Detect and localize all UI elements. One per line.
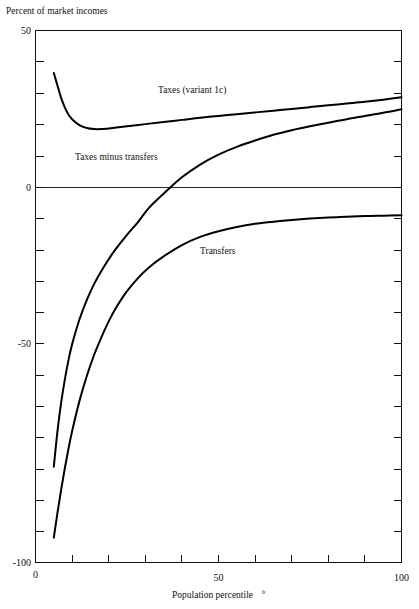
y-tick-label-0: 0	[26, 182, 31, 193]
y-axis-ticks	[36, 62, 44, 532]
y-tick-label-50: 50	[21, 25, 31, 36]
curve-taxes	[54, 73, 402, 129]
y-axis-title: Percent of market incomes	[6, 6, 108, 16]
figure-container: Percent of market incomes	[0, 0, 419, 609]
curve-label-taxes-minus-transfers: Taxes minus transfers	[75, 152, 158, 162]
x-axis-title: Population percentile	[172, 590, 253, 600]
plot-frame	[36, 31, 402, 563]
x-axis-title-group: Population percentile b	[172, 588, 265, 600]
x-axis-footnote-mark: b	[262, 588, 265, 595]
x-tick-label-50: 50	[214, 572, 224, 583]
data-curves	[54, 73, 402, 538]
chart-canvas: Percent of market incomes	[0, 0, 419, 609]
frame-rect	[36, 31, 402, 563]
curve-label-transfers: Transfers	[200, 246, 236, 256]
y-tick-label-minus-100: -100	[13, 557, 31, 568]
y-tick-label-minus-50: -50	[18, 338, 31, 349]
curve-label-taxes: Taxes (variant 1c)	[158, 85, 226, 96]
x-axis-ticks	[72, 555, 365, 563]
x-tick-label-0: 0	[33, 569, 38, 580]
curve-taxes-minus-transfers	[54, 109, 402, 467]
right-axis-ticks	[394, 62, 402, 532]
x-tick-label-100: 100	[394, 572, 409, 583]
